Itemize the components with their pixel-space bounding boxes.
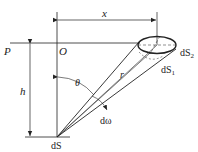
label-h: h <box>20 85 26 97</box>
label-ds1: dS1 <box>161 64 176 77</box>
label-x: x <box>101 7 107 19</box>
solid-angle-diagram: x P O h θ r dω dS dS2 dS1 <box>0 0 198 152</box>
label-p: P <box>3 45 11 57</box>
label-o: O <box>59 45 67 57</box>
label-ds: dS <box>51 140 62 151</box>
label-d-omega: dω <box>100 115 112 126</box>
label-ds2: dS2 <box>180 47 195 60</box>
label-theta: θ <box>75 77 80 88</box>
label-r: r <box>120 69 124 80</box>
